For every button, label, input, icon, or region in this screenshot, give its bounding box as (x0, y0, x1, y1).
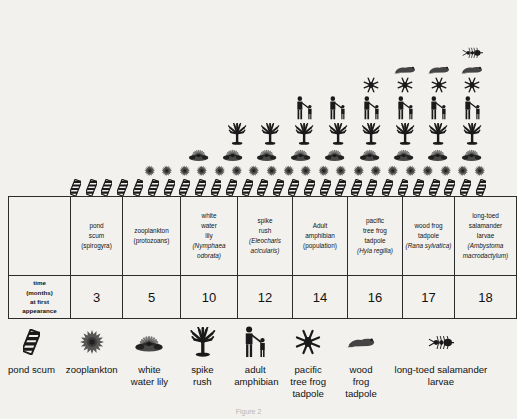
pond-scum-icon (177, 176, 193, 196)
header-common-line: salamander (456, 221, 515, 231)
water-lily-icon (134, 322, 164, 362)
header-common-line: tadpole (404, 231, 453, 241)
zooplankton-icon (367, 163, 384, 176)
table-header-white-water-lily: whitewaterlily(Nymphaea odorata) (181, 197, 238, 276)
legend-item-adult-amphibian: adult amphibian (234, 322, 276, 388)
water-lily-icon (386, 146, 420, 162)
header-common-line: tree frog (349, 226, 401, 236)
header-common-line: rush (239, 226, 291, 236)
spike-rush-icon (422, 121, 456, 145)
table-value-row: time (months) at first appearance 351012… (9, 276, 517, 319)
water-lily-icon (352, 146, 386, 162)
pacific-tree-frog-tadpole-icon (295, 322, 321, 362)
legend-label-adult-amphibian: adult amphibian (234, 364, 276, 388)
header-common-line: wood frog (404, 221, 453, 231)
table-value-zooplankton: 5 (123, 276, 181, 319)
water-lily-icon (250, 146, 284, 162)
legend-item-long-toed-salamander-larvae: long-toed salamander larvae (393, 322, 489, 388)
header-scientific-name: (spirogyra) (72, 241, 121, 251)
row-label-line-4: appearance (10, 306, 69, 315)
spike-rush-icon (355, 121, 389, 145)
legend-label-white-water-lily: white water lily (128, 364, 170, 388)
water-lily-icon (318, 146, 352, 162)
header-common-line: white (182, 211, 236, 221)
header-common-line: scum (72, 231, 121, 241)
water-lily-icon (421, 146, 455, 162)
header-common-line: spike (239, 216, 291, 226)
zooplankton-icon (384, 163, 401, 176)
pond-scum-icon (271, 176, 287, 196)
adult-amphibian-icon (240, 322, 270, 362)
pacific-tree-frog-tadpole-icon (455, 75, 489, 93)
zooplankton-icon (315, 163, 332, 176)
zooplankton-icon (228, 163, 245, 176)
spike-rush-icon (321, 121, 355, 145)
adult-amphibian-icon (388, 94, 422, 120)
header-common-line: Adult (294, 221, 346, 231)
table-header-row: pondscum(spirogyra)zooplankton(protozoan… (9, 197, 517, 276)
header-common-line: long-toed (456, 211, 515, 221)
pacific-tree-frog-tadpole-icon (388, 75, 422, 93)
pictograph-row-wood-frog-tadpole (388, 61, 489, 75)
table-value-pacific-tree-frog-tadpole: 16 (348, 276, 403, 319)
table-header-pond-scum: pondscum(spirogyra) (71, 197, 123, 276)
zooplankton-icon (158, 163, 175, 176)
legend: pond scumzooplanktonwhite water lilyspik… (0, 322, 497, 412)
pond-scum-icon (426, 176, 442, 196)
pond-scum-icon (83, 176, 99, 196)
table-header-spike-rush: spikerush(Eleocharis acicularis) (238, 197, 293, 276)
row-label-line-3: at first (10, 297, 69, 306)
pond-scum-icon (380, 176, 396, 196)
header-common-line: zooplankton (124, 226, 179, 236)
spike-rush-icon (254, 121, 288, 145)
zooplankton-icon (280, 163, 297, 176)
spike-rush-icon (287, 121, 321, 145)
legend-item-spike-rush: spike rush (181, 322, 223, 388)
pond-scum-icon (395, 176, 411, 196)
pond-scum-icon (473, 176, 489, 196)
pond-scum-icon (348, 176, 364, 196)
table-value-long-toed-salamander-larvae: 18 (455, 276, 517, 319)
header-common-line: pacific (349, 216, 401, 226)
adult-amphibian-icon (355, 94, 389, 120)
zooplankton-icon (263, 163, 280, 176)
pictograph-row-pacific-tree-frog-tadpole (355, 75, 489, 93)
wood-frog-tadpole-icon (455, 61, 489, 75)
salamander-larvae-icon (455, 42, 489, 58)
pond-scum-icon (208, 176, 224, 196)
wood-frog-tadpole-icon (347, 322, 376, 362)
zooplankton-icon (176, 163, 193, 176)
table-value-white-water-lily: 10 (181, 276, 238, 319)
pond-scum-icon (161, 176, 177, 196)
zooplankton-icon (402, 163, 419, 176)
header-common-line: water (182, 221, 236, 231)
header-common-line: lily (182, 231, 236, 241)
zooplankton-icon (437, 163, 454, 176)
table-header-adult-amphibian: Adultamphibian(population) (293, 197, 348, 276)
zooplankton-icon (332, 163, 349, 176)
zooplankton-icon (141, 163, 158, 176)
legend-item-wood-frog-tadpole: wood frog tadpole (340, 322, 382, 400)
pond-scum-icon (146, 176, 162, 196)
header-scientific-name: (Ambystoma macrodactylum) (456, 241, 515, 261)
pond-scum-icon (193, 176, 209, 196)
pictograph-row-pond-scum (68, 176, 489, 196)
spike-rush-icon (455, 121, 489, 145)
spike-rush-icon (388, 121, 422, 145)
table-header-wood-frog-tadpole: wood frogtadpole(Rana sylvatica) (403, 197, 455, 276)
pond-scum-icon (115, 176, 131, 196)
spike-rush-icon (220, 121, 254, 145)
legend-label-wood-frog-tadpole: wood frog tadpole (340, 364, 382, 400)
figure-caption: Figure 2 (0, 408, 497, 415)
pond-scum-icon (130, 176, 146, 196)
header-common-line: tadpole (349, 236, 401, 246)
row-label-line-1: time (10, 278, 69, 287)
adult-amphibian-icon (422, 94, 456, 120)
table-value-wood-frog-tadpole: 17 (403, 276, 455, 319)
header-common-line: pond (72, 221, 121, 231)
pictograph-row-zooplankton (141, 163, 489, 176)
table-header-pacific-tree-frog-tadpole: pacifictree frogtadpole(Hyla regilla) (348, 197, 403, 276)
legend-label-long-toed-salamander-larvae: long-toed salamander larvae (393, 364, 489, 388)
data-table-wrapper: pondscum(spirogyra)zooplankton(protozoan… (8, 196, 489, 319)
pacific-tree-frog-tadpole-icon (422, 75, 456, 93)
